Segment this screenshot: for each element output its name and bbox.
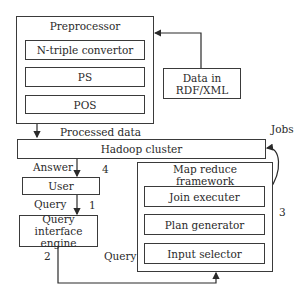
step-1-label: 1 bbox=[89, 199, 96, 211]
data-source-box: Data in RDF/XML bbox=[163, 68, 241, 99]
query-interface-engine-box: Query interface engine bbox=[19, 215, 98, 247]
data-source-line2: RDF/XML bbox=[176, 84, 228, 96]
input-selector-box: Input selector bbox=[144, 243, 265, 264]
query-label-user: Query bbox=[34, 198, 67, 210]
query-label-mr: Query bbox=[104, 250, 137, 262]
step-4-label: 4 bbox=[102, 163, 109, 175]
map-reduce-title-line1: Map reduce bbox=[137, 163, 273, 175]
pos-box: POS bbox=[25, 95, 145, 114]
data-source-line1: Data in bbox=[183, 72, 222, 84]
join-executer-box: Join executer bbox=[144, 186, 265, 207]
ps-box: PS bbox=[25, 67, 145, 87]
jobs-label: Jobs bbox=[271, 123, 294, 135]
user-box: User bbox=[22, 177, 100, 195]
ntriple-convertor-box: N-triple convertor bbox=[25, 40, 145, 60]
query-engine-line2: engine bbox=[40, 237, 76, 249]
step-3-label: 3 bbox=[279, 206, 286, 218]
hadoop-cluster-box: Hadoop cluster bbox=[17, 139, 266, 159]
plan-generator-box: Plan generator bbox=[144, 214, 265, 235]
query-engine-line1: Query interface bbox=[20, 213, 97, 237]
preprocessor-title: Preprocessor bbox=[16, 20, 154, 32]
step-2-label: 2 bbox=[44, 250, 51, 262]
processed-data-label: Processed data bbox=[60, 126, 141, 138]
answer-label: Answer bbox=[33, 161, 73, 173]
